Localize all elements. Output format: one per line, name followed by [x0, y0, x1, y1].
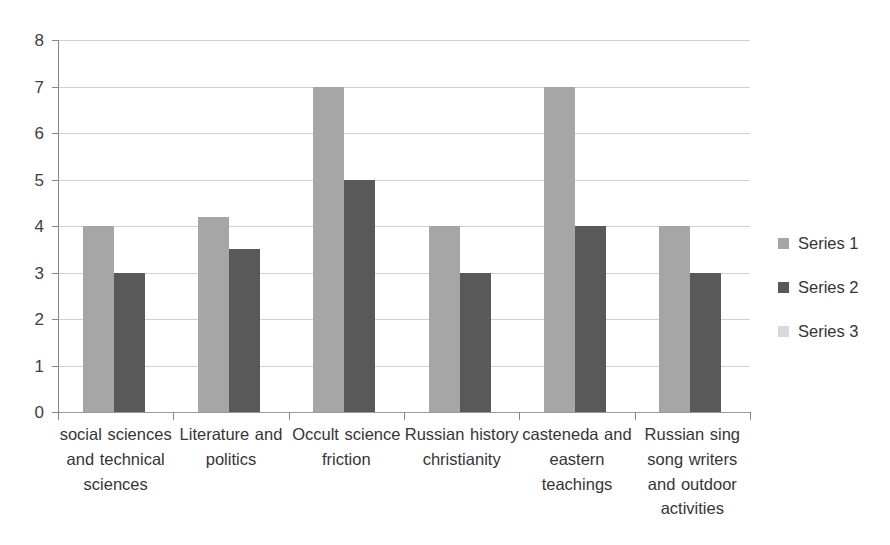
y-tick-6 [52, 133, 59, 134]
bar-group [313, 40, 375, 412]
chart-legend: Series 1Series 2Series 3 [778, 228, 884, 360]
legend-swatch-icon [778, 238, 789, 249]
y-axis-label-4: 4 [35, 218, 44, 235]
gridline-5 [58, 180, 750, 181]
bar-series-2[interactable] [344, 180, 375, 413]
gridline-3 [58, 273, 750, 274]
bar-series-1[interactable] [83, 226, 114, 412]
bar-group [429, 40, 491, 412]
y-tick-5 [52, 180, 59, 181]
bar-series-2[interactable] [114, 273, 145, 413]
bar-series-1[interactable] [313, 87, 344, 413]
legend-label: Series 2 [798, 278, 859, 297]
category-tick-5 [635, 412, 636, 420]
bar-group [659, 40, 721, 412]
y-axis-label-2: 2 [35, 311, 44, 328]
gridline-6 [58, 133, 750, 134]
y-tick-4 [52, 226, 59, 227]
bar-group [544, 40, 606, 412]
legend-swatch-icon [778, 282, 789, 293]
bar-group [83, 40, 145, 412]
bar-series-1[interactable] [198, 217, 229, 412]
bar-group [198, 40, 260, 412]
legend-label: Series 1 [798, 234, 859, 253]
y-tick-3 [52, 273, 59, 274]
bar-series-2[interactable] [229, 249, 260, 412]
y-axis-label-7: 7 [35, 78, 44, 95]
category-label: casteneda and eastern teachings [519, 422, 634, 496]
category-tick-4 [519, 412, 520, 420]
category-label: Occult science friction [289, 422, 404, 472]
category-label: social sciences and technical sciences [58, 422, 173, 496]
gridline-8 [58, 40, 750, 41]
gridline-7 [58, 87, 750, 88]
y-tick-1 [52, 366, 59, 367]
bar-series-2[interactable] [690, 273, 721, 413]
bar-series-2[interactable] [575, 226, 606, 412]
category-axis-labels: social sciences and technical sciencesLi… [58, 422, 750, 542]
y-axis-label-6: 6 [35, 125, 44, 142]
y-tick-8 [52, 40, 59, 41]
category-label: Russian sing song writers and outdoor ac… [635, 422, 750, 521]
legend-swatch-icon [778, 326, 789, 337]
gridline-1 [58, 366, 750, 367]
category-tick-6 [750, 412, 751, 420]
category-label: Russian history christianity [404, 422, 519, 472]
legend-item[interactable]: Series 1 [778, 228, 884, 258]
y-axis-label-3: 3 [35, 264, 44, 281]
y-axis-label-1: 1 [35, 357, 44, 374]
bar-series-1[interactable] [544, 87, 575, 413]
bar-series-1[interactable] [659, 226, 690, 412]
gridline-4 [58, 226, 750, 227]
category-label: Literature and politics [173, 422, 288, 472]
y-tick-7 [52, 87, 59, 88]
gridline-2 [58, 319, 750, 320]
bar-series-2[interactable] [460, 273, 491, 413]
y-axis-label-5: 5 [35, 171, 44, 188]
category-tick-3 [404, 412, 405, 420]
y-axis-label-8: 8 [35, 32, 44, 49]
legend-label: Series 3 [798, 322, 859, 341]
y-tick-2 [52, 319, 59, 320]
category-tick-0 [58, 412, 59, 420]
bar-series-1[interactable] [429, 226, 460, 412]
y-axis-label-0: 0 [35, 404, 44, 421]
legend-item[interactable]: Series 2 [778, 272, 884, 302]
category-tick-1 [173, 412, 174, 420]
plot-area [58, 40, 750, 412]
category-tick-2 [289, 412, 290, 420]
legend-item[interactable]: Series 3 [778, 316, 884, 346]
bar-chart: 012345678 social sciences and technical … [0, 0, 890, 545]
